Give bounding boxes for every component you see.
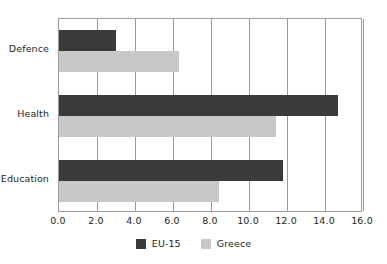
bar-defence-eu-15 [59,30,116,51]
x-axis-tick-6.0: 6.0 [164,215,179,226]
plot-area [58,18,362,212]
y-axis-label-education: Education [0,173,54,184]
bar-education-greece [59,181,219,202]
legend-swatch-icon-eu15 [136,239,146,249]
x-axis-tick-0.0: 0.0 [50,215,65,226]
bar-education-eu-15 [59,160,283,181]
legend-item-greece: Greece [201,238,251,249]
bars-layer [59,19,361,211]
x-axis-tick-16.0: 16.0 [351,215,373,226]
gridline-16.0 [363,19,364,211]
bar-defence-greece [59,51,179,72]
x-axis-tick-12.0: 12.0 [275,215,297,226]
x-axis-tick-2.0: 2.0 [88,215,103,226]
y-axis-category-labels: DefenceHealthEducation [0,18,54,212]
x-axis-tick-8.0: 8.0 [202,215,217,226]
bar-chart: DefenceHealthEducation 0.02.04.06.08.010… [0,0,387,264]
legend-label-eu15: EU-15 [152,238,181,249]
x-axis-tick-14.0: 14.0 [313,215,335,226]
chart-legend: EU-15 Greece [0,238,387,249]
y-axis-label-health: Health [0,108,54,119]
bar-health-eu-15 [59,95,338,116]
x-axis-tick-10.0: 10.0 [237,215,259,226]
legend-swatch-icon-greece [201,239,211,249]
bar-health-greece [59,116,276,137]
x-axis-tick-labels: 0.02.04.06.08.010.012.014.016.0 [0,215,387,229]
legend-item-eu15: EU-15 [136,238,181,249]
y-axis-label-defence: Defence [0,43,54,54]
x-axis-tick-4.0: 4.0 [126,215,141,226]
legend-label-greece: Greece [217,238,251,249]
